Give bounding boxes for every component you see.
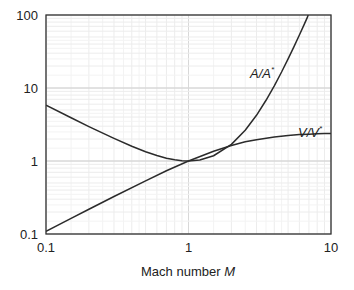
x-tick-label: 1 [185, 240, 192, 255]
mach-number-chart: 0.1110100 0.1110 Mach number M A/A* V/V* [0, 0, 354, 290]
y-axis-ticks: 0.1110100 [16, 8, 38, 242]
plot-grid [46, 15, 331, 234]
curve-label-area-ratio: A/A* [249, 65, 275, 81]
x-axis-ticks: 0.1110 [37, 240, 338, 255]
y-tick-label: 10 [24, 81, 38, 96]
x-tick-label: 10 [324, 240, 338, 255]
y-tick-label: 0.1 [20, 227, 38, 242]
curve-label-velocity-ratio: V/V* [298, 124, 323, 140]
y-tick-label: 1 [31, 154, 38, 169]
y-tick-label: 100 [16, 8, 38, 23]
x-axis-label: Mach number M [141, 264, 235, 279]
x-tick-label: 0.1 [37, 240, 55, 255]
